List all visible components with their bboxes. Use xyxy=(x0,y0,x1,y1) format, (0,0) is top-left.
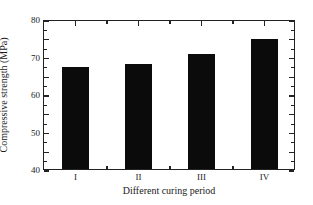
y-axis-minor-tick xyxy=(44,161,47,162)
y-axis-tick-label: 80 xyxy=(31,16,40,25)
chart-figure: Compressive strength (MPa) 0102030405060… xyxy=(0,0,313,205)
bar-i xyxy=(62,67,89,169)
y-axis-tick: 0 xyxy=(44,170,49,171)
bar-ii xyxy=(125,64,152,169)
y-axis-tick-right xyxy=(289,170,294,171)
y-axis-tick-right xyxy=(289,152,294,153)
y-axis-tick-right xyxy=(289,20,294,21)
y-axis-minor-tick-right xyxy=(291,30,294,31)
y-axis-minor-tick-right xyxy=(291,124,294,125)
x-axis-tick-top xyxy=(138,21,139,26)
y-axis-tick-label: 40 xyxy=(31,166,40,175)
x-axis-minor-tick xyxy=(169,166,170,169)
y-axis-tick: 70 xyxy=(44,39,49,40)
y-axis-minor-tick-right xyxy=(291,142,294,143)
x-axis-tick-label: IV xyxy=(260,173,270,182)
y-axis-tick-label: 70 xyxy=(31,53,40,62)
y-axis-tick: 10 xyxy=(44,152,49,153)
y-axis-tick-label: 60 xyxy=(31,91,40,100)
plot-area: 01020304050607080IIIIIIIV xyxy=(43,20,295,170)
y-axis-tick-right xyxy=(289,58,294,59)
x-axis-minor-tick-top xyxy=(232,21,233,24)
x-axis-title: Different curing period xyxy=(43,186,295,196)
y-axis-minor-tick xyxy=(44,86,47,87)
y-axis-minor-tick xyxy=(44,105,47,106)
y-axis-tick: 50 xyxy=(44,77,49,78)
y-axis-tick: 40 xyxy=(44,95,49,96)
x-axis-tick-top xyxy=(75,21,76,26)
y-axis-minor-tick xyxy=(44,67,47,68)
x-axis-minor-tick-top xyxy=(106,21,107,24)
y-axis-tick-right xyxy=(289,95,294,96)
y-axis-tick-label: 50 xyxy=(31,128,40,137)
y-axis-tick: 60 xyxy=(44,58,49,59)
y-axis-title: Compressive strength (MPa) xyxy=(0,38,9,153)
y-axis-tick-right xyxy=(289,77,294,78)
x-axis-tick-top xyxy=(201,21,202,26)
bar-iv xyxy=(251,39,278,169)
y-axis-minor-tick xyxy=(44,30,47,31)
y-axis-tick: 30 xyxy=(44,114,49,115)
y-axis-tick-right xyxy=(289,133,294,134)
x-axis-minor-tick xyxy=(106,166,107,169)
y-axis-minor-tick xyxy=(44,49,47,50)
bar-iii xyxy=(188,54,215,169)
y-axis-minor-tick-right xyxy=(291,49,294,50)
x-axis-tick-label: I xyxy=(74,173,77,182)
y-axis-minor-tick xyxy=(44,124,47,125)
y-axis-minor-tick-right xyxy=(291,105,294,106)
y-axis-minor-tick-right xyxy=(291,161,294,162)
y-axis-tick-right xyxy=(289,39,294,40)
y-axis-tick: 20 xyxy=(44,133,49,134)
y-axis-tick-right xyxy=(289,114,294,115)
x-axis-minor-tick-top xyxy=(169,21,170,24)
y-axis-minor-tick-right xyxy=(291,67,294,68)
y-axis-minor-tick-right xyxy=(291,86,294,87)
y-axis-minor-tick xyxy=(44,142,47,143)
x-axis-tick-top xyxy=(264,21,265,26)
x-axis-tick-label: II xyxy=(135,173,141,182)
x-axis-minor-tick xyxy=(232,166,233,169)
x-axis-tick-label: III xyxy=(197,173,206,182)
y-axis-tick: 80 xyxy=(44,20,49,21)
y-axis-tick-label: 30 xyxy=(31,203,40,205)
